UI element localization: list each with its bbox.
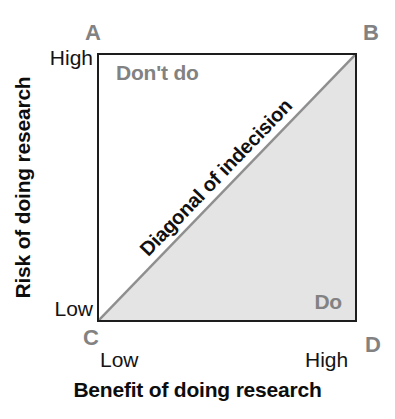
plot-regions-svg bbox=[99, 55, 355, 320]
y-axis-title: Risk of doing research bbox=[6, 53, 40, 322]
x-axis-tick-high: High bbox=[305, 348, 348, 372]
figure-decision-matrix: Risk of doing research High Low A B C D … bbox=[0, 0, 395, 419]
region-label-dont-do: Don't do bbox=[116, 61, 199, 85]
y-axis-tick-high: High bbox=[50, 46, 93, 70]
corner-label-b: B bbox=[363, 20, 379, 46]
x-axis-tick-low: Low bbox=[100, 348, 139, 372]
plot-area: Don't do Do Diagonal of indecision bbox=[97, 53, 357, 322]
corner-label-a: A bbox=[85, 20, 101, 46]
corner-label-c: C bbox=[83, 325, 99, 351]
y-axis-tick-low: Low bbox=[54, 297, 93, 321]
x-axis-title: Benefit of doing research bbox=[0, 378, 395, 402]
region-label-do: Do bbox=[314, 290, 342, 314]
corner-label-d: D bbox=[365, 332, 381, 358]
